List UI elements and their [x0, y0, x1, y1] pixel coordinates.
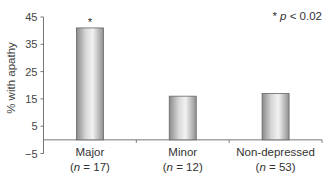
- y-axis-label: % with apathy: [5, 42, 17, 114]
- y-tick-label: 45: [25, 11, 37, 23]
- y-tick-label: 15: [25, 93, 37, 105]
- y-tick-label: −5: [25, 148, 38, 160]
- significance-marker: *: [88, 16, 93, 28]
- category-sample-size: (n = 17): [70, 161, 110, 173]
- y-tick-label: 25: [25, 66, 37, 78]
- x-axis: [44, 140, 323, 143]
- category-sample-size: (n = 12): [163, 161, 203, 173]
- y-axis: −5515253545: [25, 11, 44, 160]
- category-sample-size: (n = 53): [256, 161, 296, 173]
- bar-minor: [169, 96, 196, 140]
- y-tick-label: 5: [31, 120, 37, 132]
- significance-annotation: * p < 0.02: [272, 10, 322, 22]
- bars: *: [76, 16, 289, 140]
- y-tick-label: 35: [25, 38, 37, 50]
- category-labels: Major(n = 17)Minor(n = 12)Non-depressed(…: [70, 146, 315, 173]
- bar-major: [76, 28, 103, 140]
- category-label: Major: [76, 146, 105, 158]
- bar-non-depressed: [262, 93, 289, 139]
- category-label: Minor: [168, 146, 197, 158]
- category-label: Non-depressed: [236, 146, 315, 158]
- bar-chart: −5515253545 * Major(n = 17)Minor(n = 12)…: [0, 0, 331, 179]
